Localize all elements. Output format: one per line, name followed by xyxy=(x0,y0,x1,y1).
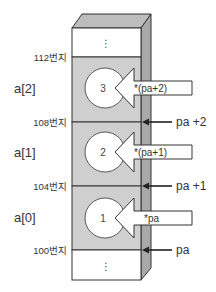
value-a1: 2 xyxy=(100,147,106,158)
address-label-100: 100번지 xyxy=(33,245,67,256)
address-label-108: 108번지 xyxy=(33,117,67,128)
ellipsis-bottom: ⋮ xyxy=(101,261,111,272)
box-top-face xyxy=(72,14,151,28)
pointer-label-pa2: pa +2 xyxy=(176,115,207,129)
ellipsis-top: ⋮ xyxy=(101,38,111,49)
array-memory-diagram: ⋮ ⋮ 112번지 108번지 104번지 100번지 a[2] a[1] a[… xyxy=(0,0,216,292)
element-label-a2: a[2] xyxy=(14,81,36,96)
element-label-a1: a[1] xyxy=(14,145,36,160)
address-label-112: 112번지 xyxy=(34,52,67,63)
value-a2: 3 xyxy=(100,83,106,94)
value-a0: 1 xyxy=(100,213,106,224)
element-label-a0: a[0] xyxy=(14,210,36,225)
pointer-label-pa1: pa +1 xyxy=(176,179,207,193)
deref-label-a2: *(pa+2) xyxy=(134,83,167,94)
deref-label-a1: *(pa+1) xyxy=(134,147,167,158)
address-label-104: 104번지 xyxy=(33,181,67,192)
deref-label-a0: *pa xyxy=(144,213,159,224)
pointer-label-pa: pa xyxy=(176,243,190,257)
